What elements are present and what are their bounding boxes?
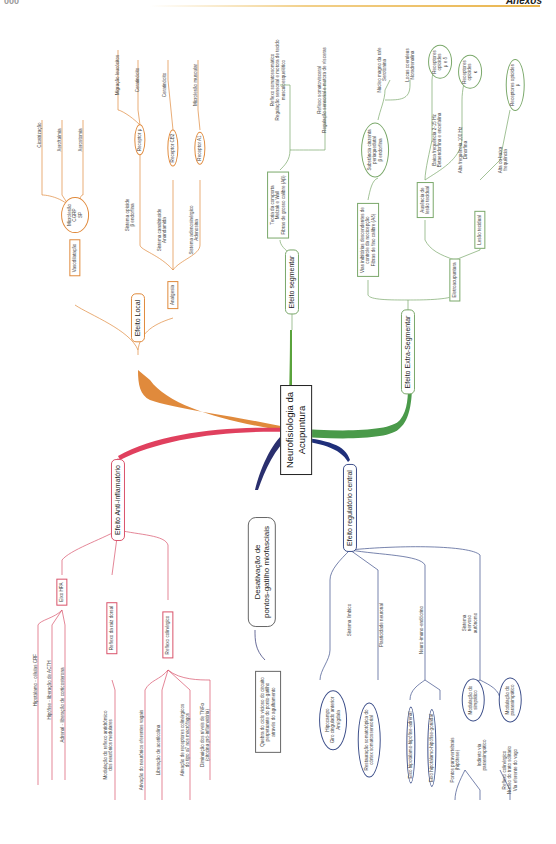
leaf-ativacao-neuronios-vagais: Ativação do neurônios eferentes vagais — [139, 710, 144, 790]
node-sistema-adenosinergico: Sistema adenosinérgicoAdenosina — [189, 205, 200, 254]
node-neuro-imuno-endocrino: Neuro-imuno-endócrino — [419, 606, 424, 654]
leaf-hipofise-acth: Hipófise - liberação de ACTH — [47, 660, 52, 719]
node-substancia-cinzenta: Substância cinzentaperiaquedutalβ endorf… — [361, 122, 389, 177]
leaf-xeroftalmia: Xeroftalmia — [57, 128, 62, 151]
leaf-reflexo-colinergico-vago: Reflexo colinérgicoNúcleo do trato solit… — [502, 746, 518, 794]
node-efeito-anti-inflamatorio: Efeito Anti-inflamatório — [111, 459, 125, 541]
node-reflexo-somatossomatico: Reflexo somatossomáticoRegulação sensori… — [270, 40, 286, 121]
node-receptores-mu: Receptores opioidesμ — [506, 59, 525, 111]
node-alta-ou-baixa: Alta ou baixafrequência — [498, 147, 509, 174]
node-restauracao-somatotopica: Restauração somatotópica docórtex somato… — [358, 702, 381, 777]
node-efeito-segmentar: Efeito segmentar — [285, 250, 299, 315]
node-lesao-tecidual: Lesão tecidual — [474, 211, 485, 249]
node-ausencia-lesao: Ausência delesão tecidual — [417, 182, 434, 218]
node-eletroacupuntura: Eletroacupuntura — [449, 259, 460, 302]
node-reflexo-somatovisceral: Reflexo somatovisceralRegulação sensoria… — [317, 47, 328, 133]
leaf-indireto-parassimpatico: Indireto viaparassimpático — [477, 740, 488, 771]
central-node-line1: Neurofisiologia da — [284, 392, 296, 468]
node-sistema-opioide: Sistema opioideβ endorfina — [125, 199, 136, 232]
leaf-ceratinocito-1: Ceratinócito — [135, 68, 140, 93]
central-node-line2: Acupuntura — [296, 392, 308, 468]
node-receptores-kappa: Receptoresopioidesκ — [458, 55, 482, 89]
node-alta-frequencia: Alta frequência 100 HzDinorfina — [458, 127, 469, 173]
node-modulacao-simpatico: Modulação dosimpático — [462, 679, 485, 722]
node-microlesao: Microlesão CGRP SP — [61, 197, 89, 233]
node-receptores-mu-delta: Receptoresopioidesμ e δ — [428, 45, 452, 79]
leaf-ativacao-receptores-a7: Ativação de receptores colinérgicosdo ti… — [180, 704, 191, 777]
node-quebra-ciclo-vicioso: Quebra do ciclo vicioso do circuitoperpe… — [255, 671, 281, 753]
node-efeito-regulatorio-central: Efeito regulatório central — [343, 464, 357, 552]
node-sistema-limbico: Sistema límbico — [347, 604, 352, 636]
node-nucleo-magno-rafe: Núcleo magno da rafeSerotonina — [377, 47, 388, 92]
node-baixa-frequencia: Baixa frequência 2-15 HzBetaendorfina e … — [432, 113, 443, 168]
node-hipocampo: HipocampoGiro cingulado anteriorAmígdala — [319, 690, 347, 750]
leaf-pontos-paravertebrais: Pontos paravertebrais(hipótese) — [450, 738, 461, 783]
node-locus-coeruleus: Locus coeruleusNoradrenalina — [405, 48, 416, 81]
central-node: Neurofisiologia da Acupuntura — [280, 385, 312, 475]
node-efeito-local: Efeito Local — [131, 294, 145, 343]
leaf-adrenal-corticosterona: Adrenal - liberação de corticosterona — [60, 667, 65, 742]
node-vias-inibitorias: Vias inibitórias descendentes decontrole… — [357, 203, 379, 277]
node-eixo-hpa: Eixo HPA — [56, 578, 67, 605]
leaf-migracao-leucocitos: Migração leucócitos — [115, 55, 120, 96]
leaf-cicatrizacao: Cicatrização — [37, 122, 42, 147]
node-sistema-nervoso-autonomo: Sistemanervosoautônomo — [462, 613, 478, 633]
node-efeito-extra-segmentar: Efeito Extra-Segmentar — [401, 310, 415, 395]
leaf-diminuicao-tnfa: Diminuição dos níveis de TNFα(citocina p… — [200, 703, 211, 767]
leaf-ceratinocito-2: Ceratinócito — [162, 73, 167, 98]
node-teoria-comporta: Teoria da comportaMelzak e WallFibras de… — [267, 171, 289, 238]
node-modulacao-parassimpatico: Modulação doparassimpático — [499, 678, 522, 723]
node-vasodilatacao: Vasodilatação — [69, 240, 80, 277]
node-sistema-canabinoide: Sistema canabinoideAnandamida — [157, 209, 168, 252]
node-analgesia: Analgesia — [167, 281, 178, 309]
node-reflexo-colinergico: Reflexo colinérgico — [162, 612, 173, 659]
leaf-microlesao-muscular: Microlesão muscular — [193, 64, 198, 106]
leaf-modulacao-reflexo-antidromico: Modulação do reflexo antidrômicodos neur… — [103, 711, 114, 780]
leaf-liberacao-acetilcolina: Liberação de acetilcolina — [156, 725, 161, 776]
leaf-hipotalamo-crf: Hipotálamo - células CRF — [33, 654, 38, 706]
node-desativacao-pontos-gatilho: Desativação depontos-gatilho miofasciais — [248, 517, 276, 627]
node-reflexo-raiz-dorsal: Reflexo da raiz dorsal — [106, 602, 117, 654]
node-plasticidade-neuronal: Plasticidade neuronal — [379, 603, 384, 647]
leaf-xerostomia: Xerostomia — [78, 128, 83, 151]
